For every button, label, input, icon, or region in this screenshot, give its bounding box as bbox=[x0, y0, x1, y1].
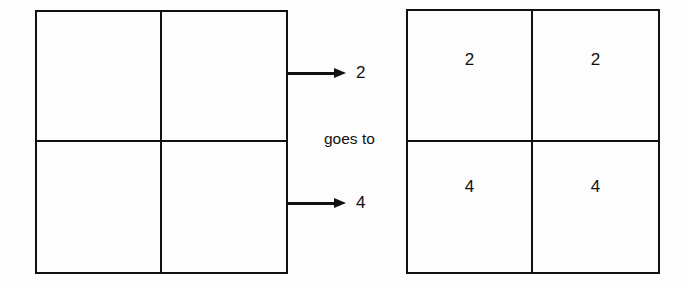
row-1-arrow-label: 2 bbox=[356, 64, 365, 81]
source-cell-bottom-right bbox=[162, 142, 287, 272]
result-cell-top-right-label: 2 bbox=[591, 51, 600, 68]
diagram-canvas: 2 4 goes to 2 2 4 4 bbox=[0, 0, 689, 288]
result-cell-top-left: 2 bbox=[408, 11, 533, 142]
row-2-arrow-icon bbox=[287, 202, 335, 205]
goes-to-caption: goes to bbox=[324, 131, 375, 147]
row-2-arrow-label: 4 bbox=[356, 194, 365, 211]
result-cell-top-right: 2 bbox=[533, 11, 658, 142]
source-matrix bbox=[35, 10, 288, 274]
source-cell-top-right bbox=[162, 12, 287, 142]
source-cell-top-left bbox=[37, 12, 162, 142]
result-matrix: 2 2 4 4 bbox=[406, 9, 660, 274]
result-cell-bottom-right-label: 4 bbox=[591, 178, 600, 195]
result-cell-bottom-right: 4 bbox=[533, 142, 658, 273]
source-cell-bottom-left bbox=[37, 142, 162, 272]
row-1-arrow-icon bbox=[287, 72, 335, 75]
result-cell-top-left-label: 2 bbox=[465, 51, 474, 68]
result-cell-bottom-left-label: 4 bbox=[465, 178, 474, 195]
result-cell-bottom-left: 4 bbox=[408, 142, 533, 273]
